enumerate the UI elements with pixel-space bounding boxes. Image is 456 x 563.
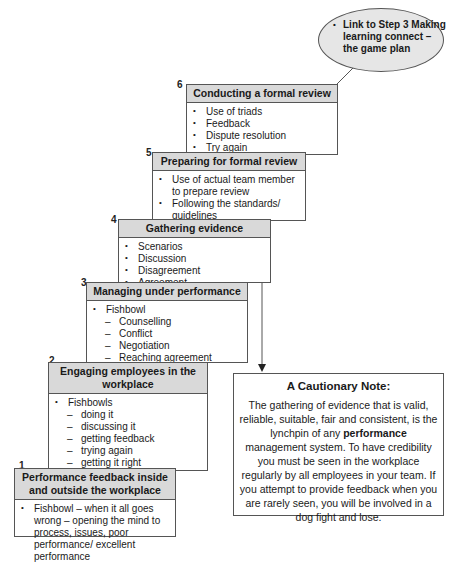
step-box-5: Preparing for formal review Use of actua… xyxy=(152,152,306,221)
step-box-1: Performance feedback inside and outside … xyxy=(14,468,176,537)
list-subitem: Negotiation xyxy=(93,340,243,352)
list-item: Fishbowls xyxy=(55,397,203,409)
list-item: Discussion xyxy=(125,253,266,265)
step-title: Engaging employees in the workplace xyxy=(49,363,207,394)
step-items: Fishbowl – when it all goes wrong – open… xyxy=(15,500,175,563)
list-item: Use of triads xyxy=(193,106,333,118)
cautionary-note: A Cautionary Note: The gathering of evid… xyxy=(233,373,444,516)
step-title: Conducting a formal review xyxy=(187,85,337,103)
list-subitem: doing it xyxy=(55,409,203,421)
note-body-emphasis: performance xyxy=(343,427,407,439)
step-items: Fishbowl Counselling Conflict Negotiatio… xyxy=(87,301,247,367)
step-box-4: Gathering evidence Scenarios Discussion … xyxy=(118,219,271,283)
step-title: Managing under performance xyxy=(87,283,247,301)
step-title: Preparing for formal review xyxy=(153,153,305,171)
list-item: Feedback xyxy=(193,118,333,130)
step-items: Use of actual team member to prepare rev… xyxy=(153,171,305,225)
list-item: Fishbowl – when it all goes wrong – open… xyxy=(21,503,171,563)
list-subitem: Counselling xyxy=(93,316,243,328)
note-body: The gathering of evidence that is valid,… xyxy=(239,398,438,524)
list-item: Fishbowl xyxy=(93,304,243,316)
list-item: Dispute resolution xyxy=(193,130,333,142)
step-number-4: 4 xyxy=(111,214,117,225)
list-item: Scenarios xyxy=(125,241,266,253)
list-subitem: discussing it xyxy=(55,421,203,433)
step-title: Performance feedback inside and outside … xyxy=(15,469,175,500)
step-number-5: 5 xyxy=(146,147,152,158)
note-body-text: The gathering of evidence that is valid,… xyxy=(240,399,438,439)
link-ellipse: Link to Step 3 Making learning connect –… xyxy=(318,8,444,72)
step-box-2: Engaging employees in the workplace Fish… xyxy=(48,362,208,471)
note-body-text: management system. To have credibility y… xyxy=(240,441,437,523)
step-box-3: Managing under performance Fishbowl Coun… xyxy=(86,282,248,363)
list-item: Use of actual team member to prepare rev… xyxy=(159,174,301,198)
step-number-6: 6 xyxy=(177,79,183,90)
note-title: A Cautionary Note: xyxy=(239,380,438,392)
step-items: Use of triads Feedback Dispute resolutio… xyxy=(187,103,337,157)
list-item: Disagreement xyxy=(125,265,266,277)
link-text: Link to Step 3 Making learning connect –… xyxy=(333,19,447,55)
step-items: Fishbowls doing it discussing it getting… xyxy=(49,394,207,472)
list-subitem: Conflict xyxy=(93,328,243,340)
list-subitem: trying again xyxy=(55,445,203,457)
list-subitem: getting feedback xyxy=(55,433,203,445)
step-box-6: Conducting a formal review Use of triads… xyxy=(186,84,338,155)
step-title: Gathering evidence xyxy=(119,220,270,238)
